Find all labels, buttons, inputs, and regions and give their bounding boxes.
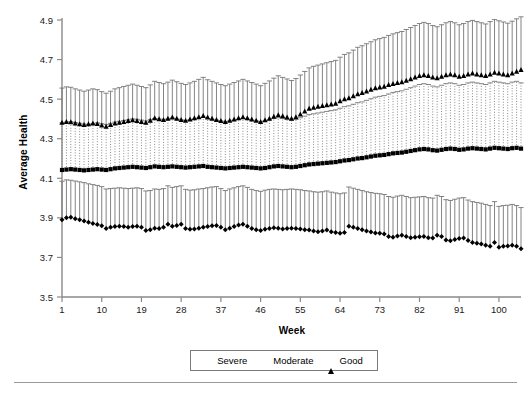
legend-item-good: Good	[328, 355, 363, 366]
data-point-diamond	[298, 226, 303, 231]
data-point-triangle	[271, 114, 276, 119]
data-point-triangle	[426, 73, 431, 78]
data-point-square	[122, 166, 126, 170]
data-point-square	[206, 165, 210, 169]
data-point-diamond	[157, 226, 162, 231]
x-axis-tick-label: 19	[136, 304, 147, 315]
data-point-square	[228, 166, 232, 170]
data-point-square	[382, 153, 386, 157]
data-point-diamond	[276, 226, 281, 231]
x-axis-tick-label: 46	[255, 304, 266, 315]
data-point-diamond	[391, 235, 396, 240]
data-point-square	[188, 165, 192, 169]
data-point-square	[453, 147, 457, 151]
data-point-square	[466, 147, 470, 151]
data-point-square	[338, 159, 342, 163]
data-point-triangle	[408, 76, 413, 81]
data-point-diamond	[373, 230, 378, 235]
data-point-triangle	[452, 72, 457, 77]
data-point-square	[117, 166, 121, 170]
data-point-diamond	[240, 222, 245, 227]
data-point-diamond	[320, 228, 325, 233]
data-point-diamond	[519, 246, 524, 251]
data-point-diamond	[435, 233, 440, 238]
data-point-square	[201, 164, 205, 168]
data-point-triangle	[430, 75, 435, 80]
data-point-diamond	[368, 230, 373, 235]
data-point-triangle	[364, 88, 369, 93]
data-point-square	[60, 168, 64, 172]
data-point-diamond	[329, 229, 334, 234]
data-point-diamond	[395, 234, 400, 239]
data-point-square	[104, 168, 108, 172]
data-point-square	[391, 151, 395, 155]
data-point-triangle	[333, 101, 338, 106]
data-point-triangle	[324, 102, 329, 107]
data-point-triangle	[280, 113, 285, 118]
data-point-square	[360, 156, 364, 160]
data-point-triangle	[302, 109, 307, 114]
x-axis-label: Week	[62, 320, 522, 338]
data-point-diamond	[86, 220, 91, 225]
data-point-triangle	[360, 90, 365, 95]
data-point-triangle	[470, 71, 475, 76]
data-point-diamond	[218, 225, 223, 230]
data-point-square	[219, 166, 223, 170]
data-point-square	[316, 162, 320, 166]
data-point-triangle	[320, 103, 325, 108]
data-point-square	[311, 162, 315, 166]
data-point-diamond	[488, 244, 493, 249]
data-point-triangle	[390, 81, 395, 86]
data-point-diamond	[505, 243, 510, 248]
data-point-square	[259, 166, 263, 170]
data-point-triangle	[505, 72, 510, 77]
data-point-diamond	[399, 233, 404, 238]
data-point-square	[241, 165, 245, 169]
data-point-square	[470, 146, 474, 150]
data-point-diamond	[311, 228, 316, 233]
data-point-square	[69, 167, 73, 171]
data-point-square	[161, 165, 165, 169]
data-point-diamond	[227, 226, 232, 231]
data-point-triangle	[346, 95, 351, 100]
x-axis-tick-label: 10	[96, 304, 107, 315]
data-point-diamond	[496, 245, 501, 250]
data-point-square	[82, 168, 86, 172]
data-point-diamond	[99, 223, 104, 228]
data-point-triangle	[474, 71, 479, 76]
data-point-diamond	[174, 223, 179, 228]
footer-divider	[14, 382, 517, 383]
data-point-diamond	[187, 227, 192, 232]
data-point-diamond	[170, 224, 175, 229]
data-point-diamond	[183, 226, 188, 231]
data-point-diamond	[307, 228, 312, 233]
data-point-triangle	[315, 104, 320, 109]
data-point-diamond	[192, 226, 197, 231]
data-point-square	[135, 165, 139, 169]
data-point-diamond	[179, 222, 184, 227]
data-point-diamond	[421, 234, 426, 239]
data-point-square	[351, 157, 355, 161]
data-point-triangle	[488, 71, 493, 76]
data-point-diamond	[104, 226, 109, 231]
legend-item-moderate: Moderate	[261, 355, 313, 366]
data-point-triangle	[351, 93, 356, 98]
data-point-square	[386, 152, 390, 156]
data-point-triangle	[461, 73, 466, 78]
data-point-square	[192, 165, 196, 169]
data-point-diamond	[82, 219, 87, 224]
data-point-square	[510, 146, 514, 150]
data-point-diamond	[196, 226, 201, 231]
data-point-square	[276, 164, 280, 168]
data-point-square	[395, 151, 399, 155]
x-axis-tick-label: 91	[454, 304, 465, 315]
data-point-diamond	[377, 231, 382, 236]
legend-item-severe: Severe	[205, 355, 247, 366]
data-point-square	[144, 166, 148, 170]
data-point-diamond	[161, 225, 166, 230]
data-point-diamond	[351, 225, 356, 230]
data-point-square	[232, 166, 236, 170]
data-point-triangle	[404, 78, 409, 83]
data-point-square	[294, 165, 298, 169]
data-point-square	[448, 147, 452, 151]
